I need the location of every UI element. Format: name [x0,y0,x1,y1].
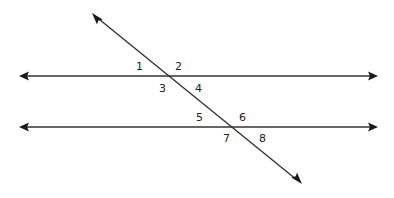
angle-label-6: 6 [239,111,246,124]
angle-label-4: 4 [195,82,202,95]
angle-label-8: 8 [259,132,266,145]
angle-label-3: 3 [159,82,166,95]
arrowhead-up-left-icon [92,13,103,25]
parallel-line-top [19,72,378,81]
angle-label-5: 5 [196,111,203,124]
angle-label-2: 2 [175,60,182,73]
angle-label-1: 1 [136,60,143,73]
transversal-diagram: 1 2 3 4 5 6 7 8 [0,0,394,198]
arrowhead-down-right-icon [291,172,302,184]
angle-label-7: 7 [223,132,230,145]
transversal-line [92,13,302,184]
